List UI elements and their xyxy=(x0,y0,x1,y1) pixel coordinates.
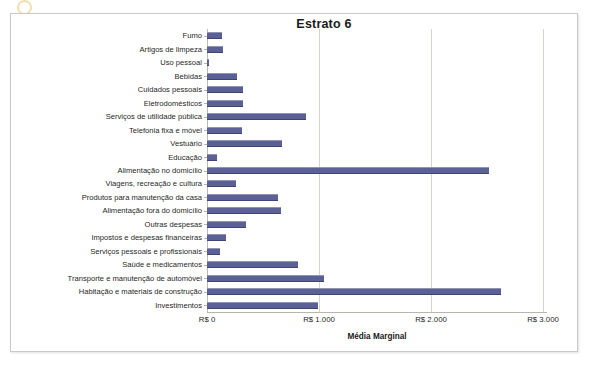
category-label: Investimentos xyxy=(155,301,202,310)
bar xyxy=(207,32,222,39)
bar xyxy=(207,221,246,228)
category-tick xyxy=(204,305,207,306)
value-axis-labels: R$ 0R$ 1.000R$ 2.000R$ 3.000 xyxy=(207,315,547,329)
category-label: Alimentação fora do domicílio xyxy=(102,206,202,215)
value-axis-tick-label: R$ 1.000 xyxy=(303,315,335,324)
category-label: Alimentação no domicílio xyxy=(118,166,202,175)
category-tick xyxy=(204,184,207,185)
bar xyxy=(207,261,298,268)
category-tick xyxy=(204,157,207,158)
bar xyxy=(207,59,209,66)
plot-area xyxy=(207,29,547,312)
bar xyxy=(207,288,501,295)
category-label: Eletrodomésticos xyxy=(144,99,202,108)
bar xyxy=(207,180,236,187)
category-tick xyxy=(204,76,207,77)
category-tick xyxy=(204,197,207,198)
bar xyxy=(207,127,242,134)
bar xyxy=(207,140,282,147)
bar xyxy=(207,275,324,282)
category-label: Serviços de utilidade pública xyxy=(106,112,202,121)
category-tick xyxy=(204,292,207,293)
bar xyxy=(207,73,237,80)
category-label: Viagens, recreação e cultura xyxy=(105,179,202,188)
category-tick xyxy=(204,265,207,266)
category-tick xyxy=(204,90,207,91)
bar xyxy=(207,302,318,309)
bar xyxy=(207,113,306,120)
category-label: Fumo xyxy=(183,31,202,40)
category-label: Impostos e despesas financeiras xyxy=(91,233,202,242)
category-label: Cuidados pessoais xyxy=(138,85,202,94)
bar xyxy=(207,86,243,93)
category-tick xyxy=(204,278,207,279)
category-axis-line xyxy=(207,312,547,313)
category-label: Habitação e materiais de construção xyxy=(79,287,202,296)
category-label: Bebidas xyxy=(175,72,202,81)
category-tick xyxy=(204,36,207,37)
bar xyxy=(207,154,217,161)
category-label: Outras despesas xyxy=(145,220,202,229)
category-label: Telefonia fixa e móvel xyxy=(129,126,202,135)
bar xyxy=(207,234,226,241)
category-tick xyxy=(204,224,207,225)
category-tick xyxy=(204,171,207,172)
category-tick xyxy=(204,144,207,145)
bar xyxy=(207,167,489,174)
category-label: Uso pessoal xyxy=(160,58,202,67)
bar xyxy=(207,194,278,201)
bar xyxy=(207,46,223,53)
category-label: Serviços pessoais e profissionais xyxy=(90,247,202,256)
category-tick xyxy=(204,211,207,212)
bar-series xyxy=(207,29,547,312)
category-tick xyxy=(204,63,207,64)
category-tick xyxy=(204,251,207,252)
category-tick xyxy=(204,49,207,50)
category-tick xyxy=(204,117,207,118)
value-axis-tick-label: R$ 0 xyxy=(199,315,215,324)
category-tick xyxy=(204,238,207,239)
x-axis-title: Média Marginal xyxy=(207,332,547,341)
category-tick xyxy=(204,103,207,104)
category-label: Saúde e medicamentos xyxy=(122,260,202,269)
bar xyxy=(207,248,220,255)
value-axis-tick-label: R$ 3.000 xyxy=(527,315,559,324)
category-label: Educação xyxy=(168,153,202,162)
bar xyxy=(207,207,281,214)
category-tick xyxy=(204,130,207,131)
chart-frame: Estrato 6 FumoArtigos de limpezaUso pess… xyxy=(10,13,578,352)
category-label: Vestuário xyxy=(170,139,202,148)
value-axis-tick-label: R$ 2.000 xyxy=(415,315,447,324)
bar xyxy=(207,100,243,107)
category-label: Artigos de limpeza xyxy=(140,45,202,54)
category-label: Transporte e manutenção de automóvel xyxy=(68,274,202,283)
category-axis-labels: FumoArtigos de limpezaUso pessoalBebidas… xyxy=(11,29,207,312)
category-label: Produtos para manutenção da casa xyxy=(82,193,202,202)
